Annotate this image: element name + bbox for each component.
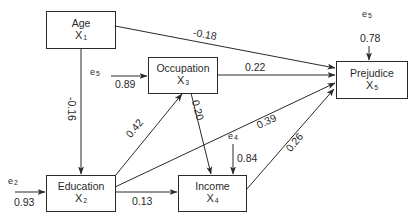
error-e3-coef: 0.89 (115, 78, 135, 90)
node-occupation: Occupation X3 (148, 57, 218, 94)
error-e4-name: e4 (228, 131, 238, 141)
coef-education-income: 0.13 (132, 195, 152, 207)
error-e3-name: e5 (90, 67, 100, 77)
error-e2-name: e2 (8, 176, 18, 186)
node-income: Income X4 (178, 175, 247, 212)
node-income-label: Income (195, 180, 229, 192)
edge-education-occupation (115, 94, 182, 176)
node-prejudice-var: X5 (366, 79, 378, 94)
node-occupation-var: X3 (177, 74, 189, 89)
error-e5-name: e5 (362, 9, 372, 19)
error-e2-coef: 0.93 (14, 196, 34, 208)
node-age-var: X1 (75, 29, 87, 44)
node-education-var: X2 (75, 192, 87, 207)
error-e5-coef: 0.78 (360, 32, 380, 44)
node-prejudice-label: Prejudice (350, 67, 394, 79)
error-e4-coef: 0.84 (237, 152, 257, 164)
node-age-label: Age (72, 17, 91, 29)
coef-age-education: -0.16 (66, 97, 78, 121)
node-income-var: X4 (206, 192, 218, 207)
node-education-label: Education (58, 180, 105, 192)
node-age: Age X1 (46, 11, 116, 49)
node-prejudice: Prejudice X5 (336, 61, 408, 99)
node-education: Education X2 (46, 175, 116, 212)
node-occupation-label: Occupation (156, 62, 209, 74)
coef-occupation-prejudice: 0.22 (245, 61, 265, 73)
